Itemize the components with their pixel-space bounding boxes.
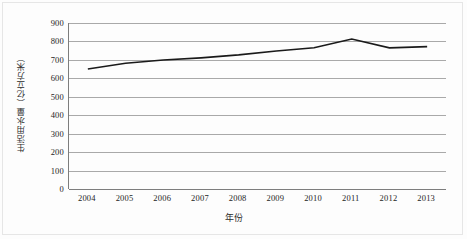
y-tick-label-400: 400 — [34, 110, 64, 120]
x-tick-label-2010: 2010 — [293, 193, 333, 203]
y-axis-tick-label-group: 9008007006005004003002001000 — [34, 0, 64, 239]
chart-container: 生活用水量（亿立方米） 9008007006005004003002001000… — [0, 0, 467, 239]
x-tick-label-2011: 2011 — [331, 193, 371, 203]
y-tick-label-100: 100 — [34, 166, 64, 176]
y-tick-label-800: 800 — [34, 36, 64, 46]
gridline-0 — [69, 189, 446, 190]
x-tick-label-2012: 2012 — [368, 193, 408, 203]
x-tick-label-2005: 2005 — [105, 193, 145, 203]
y-axis-title: 生活用水量（亿立方米） — [14, 28, 30, 178]
x-tick-label-2004: 2004 — [67, 193, 107, 203]
y-tick-label-500: 500 — [34, 92, 64, 102]
y-tick-label-600: 600 — [34, 73, 64, 83]
x-tick-label-2006: 2006 — [142, 193, 182, 203]
x-axis-tick-label-group: 2004200520062007200820092010201120122013 — [68, 193, 445, 207]
x-tick-label-2013: 2013 — [406, 193, 446, 203]
y-tick-label-700: 700 — [34, 55, 64, 65]
y-tick-label-900: 900 — [34, 18, 64, 28]
y-tick-label-0: 0 — [34, 184, 64, 194]
x-axis-title: 年份 — [0, 211, 467, 224]
plot-area — [68, 23, 445, 189]
series-line-domestic-water-use — [88, 39, 427, 69]
x-tick-label-2008: 2008 — [218, 193, 258, 203]
x-tick-label-2009: 2009 — [255, 193, 295, 203]
y-tick-label-200: 200 — [34, 147, 64, 157]
y-tick-label-300: 300 — [34, 129, 64, 139]
x-tick-label-2007: 2007 — [180, 193, 220, 203]
series-line-svg — [69, 23, 446, 189]
